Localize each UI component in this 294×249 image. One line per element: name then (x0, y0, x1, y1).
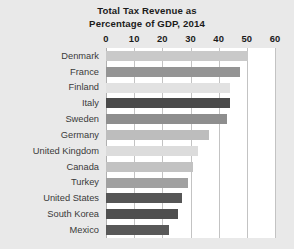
x-tick-label-20: 20 (157, 33, 168, 44)
bar (106, 209, 178, 219)
y-axis-category-labels: DenmarkFranceFinlandItalySwedenGermanyUn… (0, 48, 103, 238)
chart-figure: Total Tax Revenue as Percentage of GDP, … (0, 0, 294, 249)
bar (106, 193, 182, 203)
category-label: Germany (61, 130, 99, 140)
bar (106, 146, 198, 156)
bar (106, 98, 230, 108)
category-label: United States (43, 193, 99, 203)
category-label: Mexico (70, 225, 99, 235)
bar (106, 130, 209, 140)
bar (106, 178, 188, 188)
x-tick-label-0: 0 (103, 33, 108, 44)
category-label: Turkey (71, 177, 99, 187)
category-label: Finland (69, 82, 100, 92)
bar (106, 162, 193, 172)
category-label: Italy (82, 98, 99, 108)
x-tick-label-60: 60 (270, 33, 281, 44)
bar (106, 67, 240, 77)
x-axis-tick-labels: 0102030405060 (106, 33, 275, 47)
category-label: Canada (66, 162, 99, 172)
x-tick-label-40: 40 (213, 33, 224, 44)
category-label: South Korea (47, 209, 99, 219)
chart-title: Total Tax Revenue as Percentage of GDP, … (0, 5, 294, 30)
x-tick-label-50: 50 (242, 33, 253, 44)
category-label: United Kingdom (33, 146, 99, 156)
chart-title-line-1: Total Tax Revenue as (0, 5, 294, 18)
gridline-60 (275, 48, 276, 238)
plot-area (106, 48, 275, 238)
chart-title-line-2: Percentage of GDP, 2014 (0, 18, 294, 31)
category-label: Denmark (61, 51, 99, 61)
bar (106, 225, 169, 235)
bar (106, 51, 248, 61)
bar-series (106, 48, 275, 238)
category-label: France (70, 67, 99, 77)
category-label: Sweden (65, 114, 99, 124)
bar (106, 114, 227, 124)
x-tick-label-30: 30 (185, 33, 196, 44)
bar (106, 83, 230, 93)
x-tick-label-10: 10 (129, 33, 140, 44)
